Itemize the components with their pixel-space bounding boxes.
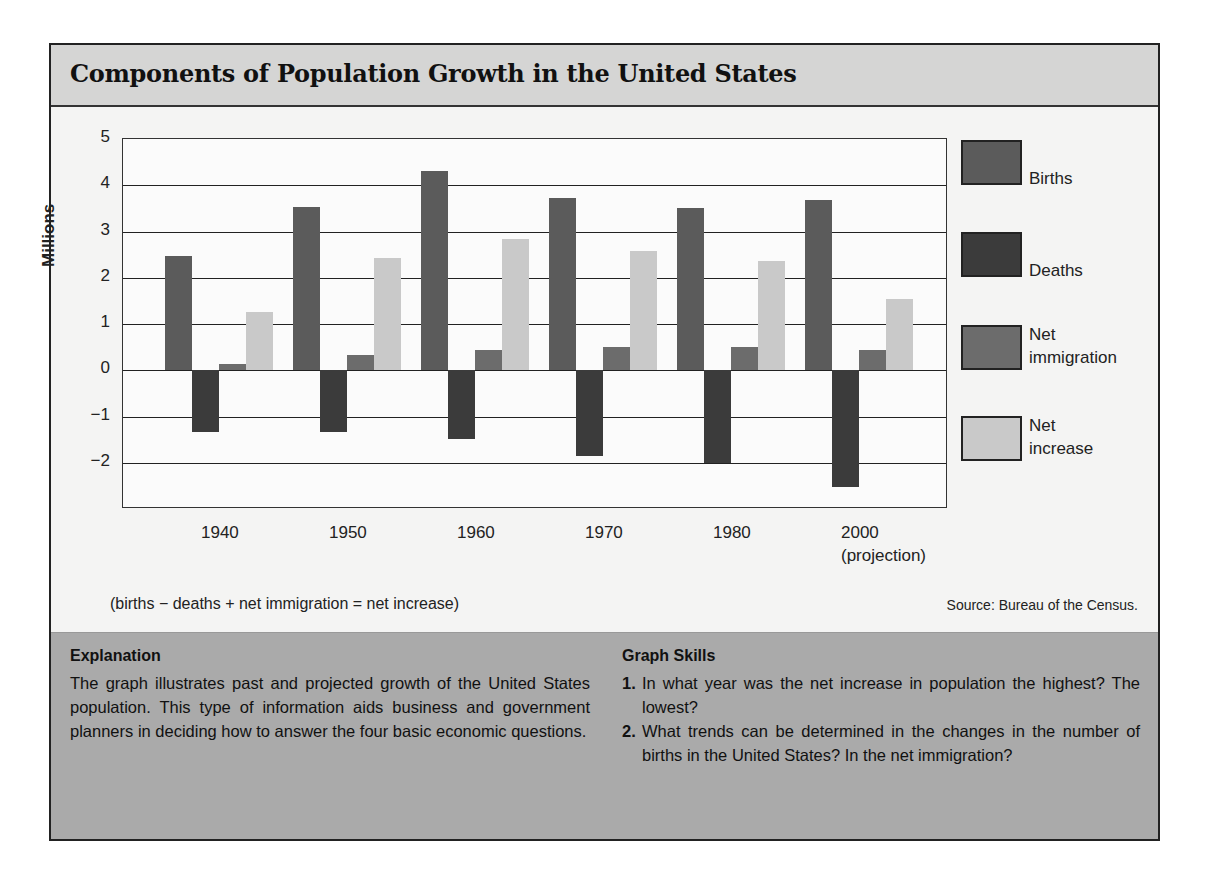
- question-1: 1. In what year was the net increase in …: [622, 671, 1140, 719]
- x-tick-label: 1940: [201, 521, 239, 544]
- bar-births-1960: [421, 171, 448, 370]
- y-tick-label: 4: [70, 173, 110, 193]
- gridline: [123, 417, 946, 418]
- legend-label: Births: [1029, 167, 1072, 190]
- bar-deaths-1940: [192, 370, 219, 432]
- bar-births-1970: [549, 198, 576, 371]
- bar-deaths-1960: [448, 370, 475, 439]
- bar-net-increase-1940: [246, 312, 273, 370]
- gridline: [123, 185, 946, 186]
- explanation-text: The graph illustrates past and projected…: [70, 671, 590, 743]
- explanation-panel: Explanation The graph illustrates past a…: [51, 632, 1158, 839]
- y-tick-label: −2: [70, 451, 110, 471]
- bar-deaths-1970: [576, 370, 603, 456]
- bar-deaths-1950: [320, 370, 347, 432]
- legend-swatch: [961, 140, 1022, 185]
- x-tick-label: 1950: [329, 521, 367, 544]
- y-tick-label: 3: [70, 220, 110, 240]
- formula-note: (births − deaths + net immigration = net…: [110, 595, 459, 613]
- question-number: 2.: [622, 719, 636, 743]
- bar-net-increase-2000: [886, 299, 913, 370]
- bar-births-2000: [805, 200, 832, 370]
- bar-net-immigration-1950: [347, 355, 374, 370]
- bar-deaths-2000: [832, 370, 859, 487]
- bar-net-immigration-2000: [859, 350, 886, 370]
- bar-deaths-1980: [704, 370, 731, 463]
- bar-net-immigration-1940: [219, 364, 246, 370]
- bar-births-1980: [677, 208, 704, 370]
- bar-net-increase-1970: [630, 251, 657, 370]
- source-note: Source: Bureau of the Census.: [947, 597, 1138, 613]
- bar-net-increase-1960: [502, 239, 529, 370]
- graph-skills-heading: Graph Skills: [622, 647, 1140, 665]
- legend-label: Netincrease: [1029, 414, 1093, 460]
- question-2: 2. What trends can be determined in the …: [622, 719, 1140, 767]
- figure-frame: Components of Population Growth in the U…: [49, 43, 1160, 841]
- figure-header: Components of Population Growth in the U…: [51, 45, 1158, 107]
- legend-swatch: [961, 232, 1022, 277]
- bar-net-immigration-1960: [475, 350, 502, 370]
- bar-births-1940: [165, 256, 192, 370]
- y-tick-label: 5: [70, 127, 110, 147]
- bar-net-increase-1980: [758, 261, 785, 371]
- x-tick-label: 1960: [457, 521, 495, 544]
- plot-area: [122, 138, 947, 508]
- legend-swatch: [961, 325, 1022, 370]
- y-axis-label: Millions: [39, 204, 59, 267]
- gridline: [123, 463, 946, 464]
- x-tick-label: 1970: [585, 521, 623, 544]
- x-tick-label: 2000(projection): [841, 521, 926, 567]
- bar-net-increase-1950: [374, 258, 401, 370]
- bar-net-immigration-1970: [603, 347, 630, 371]
- graph-skills-section: Graph Skills 1. In what year was the net…: [622, 647, 1140, 767]
- gridline: [123, 370, 946, 371]
- explanation-section: Explanation The graph illustrates past a…: [70, 647, 590, 743]
- question-text: In what year was the net increase in pop…: [642, 674, 1140, 716]
- x-tick-label: 1980: [713, 521, 751, 544]
- explanation-heading: Explanation: [70, 647, 590, 665]
- question-number: 1.: [622, 671, 636, 695]
- question-text: What trends can be determined in the cha…: [642, 722, 1140, 764]
- legend-swatch: [961, 416, 1022, 461]
- bar-net-immigration-1980: [731, 347, 758, 371]
- y-tick-label: 1: [70, 312, 110, 332]
- y-tick-label: 0: [70, 358, 110, 378]
- y-tick-label: −1: [70, 405, 110, 425]
- legend-label: Deaths: [1029, 259, 1083, 282]
- y-tick-label: 2: [70, 266, 110, 286]
- chart-title: Components of Population Growth in the U…: [70, 59, 796, 88]
- bar-births-1950: [293, 207, 320, 370]
- legend-label: Netimmigration: [1029, 323, 1117, 369]
